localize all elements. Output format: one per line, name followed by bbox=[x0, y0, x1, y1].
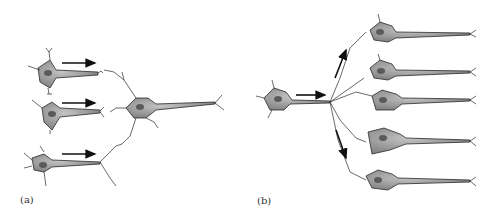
arrow-icon bbox=[336, 130, 346, 158]
panel-b-label: (b) bbox=[257, 195, 271, 206]
presynaptic-neuron bbox=[256, 32, 372, 180]
postsynaptic-neuron-4 bbox=[368, 128, 476, 154]
postsynaptic-neuron-5 bbox=[366, 170, 476, 190]
postsynaptic-neuron-1 bbox=[370, 14, 476, 42]
panel-b-divergence bbox=[256, 14, 476, 190]
presynaptic-neuron-1 bbox=[28, 48, 103, 94]
panel-a-label: (a) bbox=[20, 194, 34, 205]
panel-a-convergence bbox=[24, 48, 224, 186]
postsynaptic-neuron-2 bbox=[370, 54, 476, 80]
presynaptic-neuron-2 bbox=[32, 100, 104, 134]
postsynaptic-neuron bbox=[100, 70, 224, 186]
postsynaptic-neuron-3 bbox=[372, 90, 476, 110]
presynaptic-neuron-3 bbox=[24, 146, 100, 186]
neuron-diagram: (a) bbox=[0, 0, 494, 221]
